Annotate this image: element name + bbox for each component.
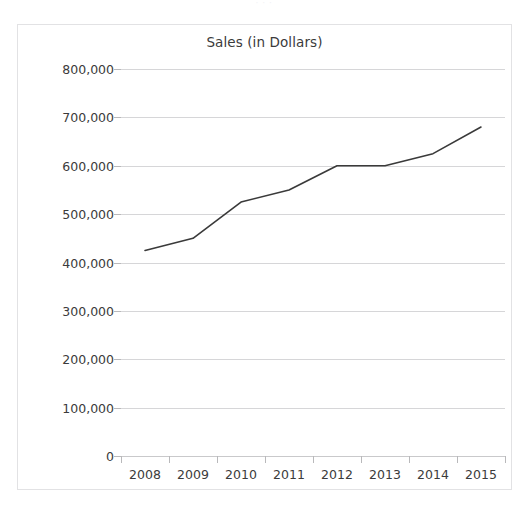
x-axis-tick-mark [313, 456, 314, 463]
clipped-text-remnant: · · · [0, 0, 528, 6]
y-axis-tick-mark [114, 263, 121, 264]
sales-line-series [121, 69, 505, 456]
y-axis-tick-mark [114, 117, 121, 118]
x-axis-tick-label: 2009 [177, 467, 209, 482]
y-axis-tick-label: 100,000 [30, 400, 114, 415]
y-axis-tick-label: 400,000 [30, 255, 114, 270]
x-axis-tick-label: 2010 [225, 467, 257, 482]
y-axis-tick-label: 600,000 [30, 158, 114, 173]
x-axis-tick-mark [457, 456, 458, 463]
y-axis-tick-label: 700,000 [30, 110, 114, 125]
x-axis-tick-label: 2008 [129, 467, 161, 482]
y-axis-tick-label: 0 [30, 449, 114, 464]
y-axis-tick-mark [114, 311, 121, 312]
x-axis-tick-mark [505, 456, 506, 463]
y-axis-tick-mark [114, 359, 121, 360]
x-axis-tick-mark [361, 456, 362, 463]
x-axis-tick-label: 2012 [321, 467, 353, 482]
x-axis-tick-mark [409, 456, 410, 463]
x-axis-tick-label: 2013 [369, 467, 401, 482]
y-axis-tick-label: 300,000 [30, 303, 114, 318]
x-axis-tick-mark [169, 456, 170, 463]
x-axis-tick-mark [217, 456, 218, 463]
y-axis-labels: 0100,000200,000300,000400,000500,000600,… [26, 69, 114, 456]
y-axis-tick-mark [114, 166, 121, 167]
x-axis-tick-label: 2011 [273, 467, 305, 482]
x-axis-tick-mark [265, 456, 266, 463]
chart-card: Sales (in Dollars) 0100,000200,000300,00… [17, 24, 512, 490]
x-axis-tick-mark [121, 456, 122, 463]
y-axis-tick-label: 200,000 [30, 352, 114, 367]
y-axis-tick-marks [114, 69, 121, 456]
x-axis: 20082009201020112012201320142015 [121, 456, 505, 490]
y-axis-tick-mark [114, 214, 121, 215]
x-axis-tick-label: 2015 [465, 467, 497, 482]
y-axis-tick-label: 800,000 [30, 62, 114, 77]
chart-title: Sales (in Dollars) [18, 34, 511, 50]
y-axis-tick-mark [114, 456, 121, 457]
y-axis-tick-mark [114, 69, 121, 70]
y-axis-tick-label: 500,000 [30, 207, 114, 222]
x-axis-tick-label: 2014 [417, 467, 449, 482]
plot-area [121, 69, 505, 456]
y-axis-tick-mark [114, 408, 121, 409]
